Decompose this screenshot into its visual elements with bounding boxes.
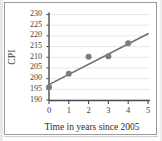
data-point-marker [125, 40, 131, 46]
y-tick-label: 210 [20, 53, 42, 61]
data-point-marker [66, 71, 72, 77]
data-point-marker [105, 53, 111, 59]
y-axis-title: CPI [7, 37, 17, 77]
y-tick-label: 205 [20, 63, 42, 71]
data-point-marker [86, 54, 92, 60]
trend-line [49, 34, 148, 85]
trend-line-segment [49, 34, 148, 85]
chart-screenshot: CPI 190195200205210215220225230 012345 T… [0, 0, 162, 141]
gridlines [49, 15, 151, 101]
data-points [46, 40, 131, 90]
x-tick-label: 3 [102, 106, 114, 115]
y-tick-label: 195 [20, 85, 42, 93]
y-tick-label: 200 [20, 74, 42, 82]
x-tick-label: 1 [63, 106, 75, 115]
y-tick-label: 220 [20, 31, 42, 39]
y-tick-label: 230 [20, 10, 42, 18]
y-tick-label: 190 [20, 96, 42, 104]
x-tick-label: 0 [43, 106, 55, 115]
data-point-marker [46, 84, 52, 90]
x-tick-label: 5 [142, 106, 154, 115]
x-axis-title: Time in years since 2005 [28, 122, 156, 132]
axis-lines [49, 13, 150, 102]
y-tick-label: 215 [20, 42, 42, 50]
x-tick-label: 2 [83, 106, 95, 115]
x-tick-label: 4 [122, 106, 134, 115]
y-tick-label: 225 [20, 21, 42, 29]
